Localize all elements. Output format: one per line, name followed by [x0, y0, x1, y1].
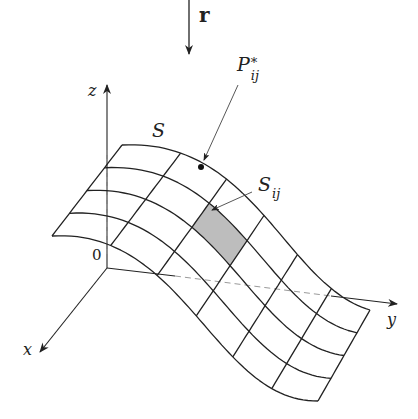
grid-line-col	[272, 289, 332, 389]
point-label-base: P	[237, 53, 250, 75]
z-axis-label: z	[88, 83, 96, 99]
grid-line-col	[233, 255, 298, 357]
grid-line-col	[318, 310, 370, 401]
patch-label: Sij	[258, 175, 279, 194]
surface-figure	[0, 0, 418, 419]
grid-line-row	[70, 213, 332, 378]
point-label-sub: ij	[251, 68, 259, 83]
sample-point	[198, 164, 204, 170]
y-axis-label: y	[387, 312, 396, 328]
x-axis-label: x	[23, 342, 32, 358]
patch-label-sub: ij	[272, 186, 280, 201]
point-pointer	[204, 85, 238, 160]
surface-label: S	[152, 121, 165, 140]
y-axis-front	[107, 268, 175, 276]
patch-pointer	[212, 192, 252, 210]
patch-label-base: S	[258, 173, 271, 195]
point-label: P*ij	[237, 55, 258, 74]
origin-label: 0	[92, 248, 102, 263]
surface-diagram: r z x y 0 S P*ij Sij	[0, 0, 418, 419]
x-axis	[40, 268, 107, 352]
grid-line-col	[111, 153, 181, 245]
mapping-label: r	[199, 5, 210, 25]
y-axis	[331, 296, 397, 304]
surface-grid	[52, 145, 370, 401]
